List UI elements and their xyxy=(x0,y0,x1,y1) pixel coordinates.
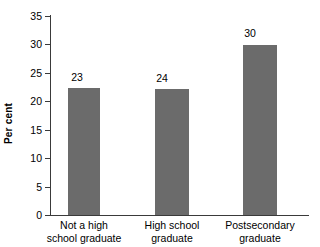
bar-postsecondary-graduate[interactable] xyxy=(243,45,277,215)
y-tick-label-15: 15 xyxy=(18,125,42,135)
bar-value-1: 24 xyxy=(137,73,187,84)
bar-high-school-graduate[interactable] xyxy=(155,89,189,215)
y-tick-label-5: 5 xyxy=(18,182,42,192)
plot-area: 23 Not a high school graduate 24 High sc… xyxy=(50,0,309,247)
y-axis-tick-labels: 35 30 25 20 15 10 5 0 xyxy=(18,0,42,247)
y-tick-label-20: 20 xyxy=(18,96,42,106)
y-tick-label-35: 35 xyxy=(18,11,42,21)
category-label-2-line-1: Postsecondary xyxy=(212,219,308,232)
category-label-0-line-2: school graduate xyxy=(36,232,132,245)
y-tick-label-30: 30 xyxy=(18,39,42,49)
bar-not-a-high-school-graduate[interactable] xyxy=(68,88,100,215)
bar-value-2: 30 xyxy=(225,28,275,39)
bar-value-0: 23 xyxy=(52,72,102,83)
y-tick-label-25: 25 xyxy=(18,68,42,78)
y-axis-title: Per cent xyxy=(0,0,16,247)
category-label-0-line-1: Not a high xyxy=(36,219,132,232)
category-label-2: Postsecondary graduate xyxy=(212,219,308,244)
bar-chart: Per cent 35 30 25 20 15 10 5 0 23 Not a … xyxy=(0,0,320,247)
category-label-1-line-1: High school xyxy=(124,219,220,232)
y-tick-label-10: 10 xyxy=(18,153,42,163)
category-label-0: Not a high school graduate xyxy=(36,219,132,244)
category-label-2-line-2: graduate xyxy=(212,232,308,245)
category-label-1: High school graduate xyxy=(124,219,220,244)
category-label-1-line-2: graduate xyxy=(124,232,220,245)
